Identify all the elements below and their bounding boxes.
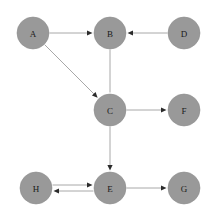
graph-svg-canvas: ABDCFHEG bbox=[0, 0, 218, 220]
node-circle[interactable] bbox=[17, 17, 49, 49]
node-circle[interactable] bbox=[168, 17, 200, 49]
graph-node-c[interactable]: C bbox=[94, 94, 126, 126]
node-circle[interactable] bbox=[94, 94, 126, 126]
edge-arrowhead-icon bbox=[161, 185, 167, 190]
graph-edge bbox=[107, 127, 112, 171]
graph-edge bbox=[54, 188, 94, 193]
graph-node-g[interactable]: G bbox=[168, 172, 200, 204]
edge-arrowhead-icon bbox=[161, 107, 167, 112]
edge-arrowhead-icon bbox=[87, 30, 93, 35]
graph-node-h[interactable]: H bbox=[20, 172, 52, 204]
node-circle[interactable] bbox=[20, 172, 52, 204]
graph-edge bbox=[45, 45, 98, 98]
graph-node-d[interactable]: D bbox=[168, 17, 200, 49]
node-circle[interactable] bbox=[94, 172, 126, 204]
graph-node-e[interactable]: E bbox=[94, 172, 126, 204]
graph-diagram: ABDCFHEG bbox=[0, 0, 218, 220]
graph-node-f[interactable]: F bbox=[168, 94, 200, 126]
graph-edge bbox=[128, 30, 168, 35]
node-circle[interactable] bbox=[168, 172, 200, 204]
edge-arrowhead-icon bbox=[54, 188, 60, 193]
node-circle[interactable] bbox=[168, 94, 200, 126]
graph-node-a[interactable]: A bbox=[17, 17, 49, 49]
graph-edge bbox=[50, 30, 93, 35]
graph-node-b[interactable]: B bbox=[94, 17, 126, 49]
edge-arrowhead-icon bbox=[87, 182, 93, 187]
graph-edge bbox=[127, 185, 167, 190]
edge-line bbox=[45, 45, 94, 94]
graph-edge bbox=[127, 107, 167, 112]
edge-arrowhead-icon bbox=[107, 165, 112, 171]
edge-arrowhead-icon bbox=[128, 30, 134, 35]
graph-edge bbox=[53, 182, 93, 187]
node-circle[interactable] bbox=[94, 17, 126, 49]
